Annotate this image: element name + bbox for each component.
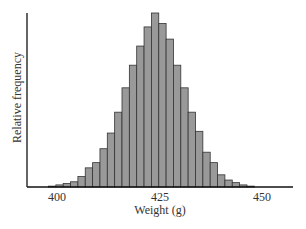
histogram-bar	[196, 131, 203, 187]
x-axis-label: Weight (g)	[0, 203, 306, 218]
histogram-bar	[129, 65, 136, 187]
histogram-bar	[188, 112, 195, 187]
histogram-bar	[85, 168, 92, 187]
histogram-bar	[137, 46, 144, 187]
histogram-bar	[225, 180, 232, 187]
histogram-bar	[181, 88, 188, 187]
histogram-bar	[115, 112, 122, 187]
histogram-bar	[218, 175, 225, 187]
histogram-bar	[93, 163, 100, 187]
histogram-bar	[203, 152, 210, 187]
histogram-bar	[71, 182, 78, 187]
histogram-bars	[49, 13, 255, 187]
histogram-bar	[100, 149, 107, 187]
histogram-bar	[232, 183, 239, 187]
y-axis-label: Relative frequency	[10, 43, 25, 153]
histogram-bar	[107, 133, 114, 187]
histogram-bar	[122, 88, 129, 187]
histogram-bar	[166, 39, 173, 187]
histogram-bar	[173, 65, 180, 187]
histogram-bar	[144, 27, 151, 187]
histogram-bar	[210, 163, 217, 187]
histogram-bar	[151, 13, 158, 187]
histogram-bar	[78, 177, 85, 187]
histogram-bar	[159, 23, 166, 187]
